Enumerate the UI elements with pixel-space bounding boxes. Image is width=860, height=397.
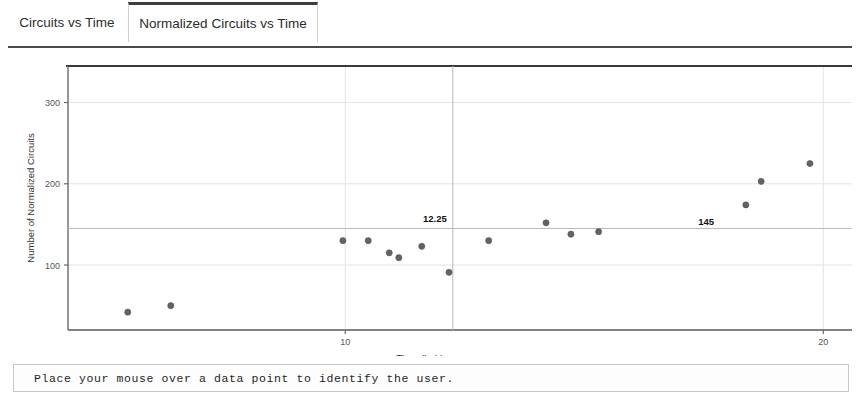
y-tick-label: 100 (45, 261, 60, 271)
tab-circuits-vs-time[interactable]: Circuits vs Time (8, 4, 126, 40)
data-point[interactable] (446, 269, 452, 275)
tab-bar-divider (8, 46, 852, 48)
status-bar: Place your mouse over a data point to id… (13, 364, 849, 392)
data-point[interactable] (486, 238, 492, 244)
data-point[interactable] (807, 160, 813, 166)
y-axis-title: Number of Normalized Circuits (25, 133, 36, 263)
plot-background (68, 66, 852, 330)
data-point[interactable] (758, 178, 764, 184)
scatter-plot[interactable]: 1002003001020 Time (in h)Number of Norma… (8, 52, 852, 356)
status-message: Place your mouse over a data point to id… (14, 372, 454, 385)
data-point[interactable] (365, 238, 371, 244)
data-point[interactable] (340, 238, 346, 244)
x-tick-label: 10 (340, 337, 350, 347)
x-tick-label: 20 (818, 337, 828, 347)
data-point[interactable] (596, 229, 602, 235)
chart-panel: 1002003001020 Time (in h)Number of Norma… (8, 52, 852, 356)
x-axis-title: Time (in h) (396, 354, 443, 356)
tab-bar: Circuits vs Time Normalized Circuits vs … (0, 0, 860, 44)
data-point[interactable] (419, 243, 425, 249)
data-point[interactable] (743, 202, 749, 208)
data-point[interactable] (125, 309, 131, 315)
data-point[interactable] (396, 255, 402, 261)
data-point[interactable] (568, 231, 574, 237)
tab-normalized-circuits-vs-time[interactable]: Normalized Circuits vs Time (128, 2, 318, 42)
y-tick-label: 300 (45, 98, 60, 108)
data-point[interactable] (168, 303, 174, 309)
data-point[interactable] (386, 250, 392, 256)
application-root: Circuits vs Time Normalized Circuits vs … (0, 0, 860, 397)
y-tick-label: 200 (45, 179, 60, 189)
annotation-label: 12.25 (423, 213, 447, 224)
data-point[interactable] (543, 220, 549, 226)
annotation-label: 145 (698, 216, 715, 227)
